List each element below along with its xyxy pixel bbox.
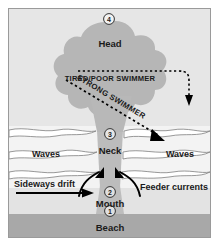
marker-3[interactable]: 3 <box>105 129 116 140</box>
waves-right-label: Waves <box>166 149 194 159</box>
neck-label: Neck <box>99 145 122 156</box>
marker-4[interactable]: 4 <box>104 14 115 25</box>
beach-label: Beach <box>96 222 125 233</box>
diagram-canvas: 4 3 2 1 Head Neck Mouth Beach Waves Wave… <box>0 0 219 246</box>
scene: 4 3 2 1 Head Neck Mouth Beach Waves Wave… <box>8 8 211 238</box>
marker-4-label: 4 <box>107 16 111 23</box>
rip-current-diagram: 4 3 2 1 Head Neck Mouth Beach Waves Wave… <box>0 0 219 246</box>
marker-2-label: 2 <box>108 189 112 196</box>
marker-3-label: 3 <box>108 131 112 138</box>
waves-left-label: Waves <box>32 149 60 159</box>
feeder-currents-label: Feeder currents <box>140 182 208 192</box>
sideways-drift-label: Sideways drift <box>14 179 75 189</box>
marker-2[interactable]: 2 <box>105 187 116 198</box>
mouth-label: Mouth <box>96 198 125 209</box>
marker-1-label: 1 <box>108 208 112 215</box>
head-label: Head <box>98 38 121 49</box>
